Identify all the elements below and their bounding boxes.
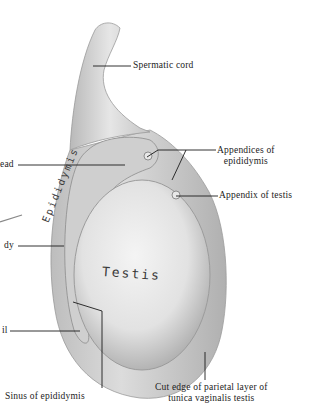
label-body: dy xyxy=(4,240,14,251)
label-appendices-line1: Appendices of xyxy=(217,145,275,156)
label-appendix-of-testis: Appendix of testis xyxy=(219,190,292,201)
label-cut-edge-line1: Cut edge of parietal layer of xyxy=(155,382,268,393)
label-sinus-of-epididymis: Sinus of epididymis xyxy=(5,391,85,402)
label-appendices-line2: epididymis xyxy=(217,156,275,167)
appendix-testis xyxy=(172,191,180,199)
label-head: ead xyxy=(0,159,14,170)
spermatic-cord xyxy=(70,23,150,150)
label-spermatic-cord: Spermatic cord xyxy=(133,60,194,71)
label-appendices-of-epididymis: Appendices of epididymis xyxy=(217,145,275,167)
label-tail: il xyxy=(2,325,8,336)
label-cut-edge-line2: tunica vaginalis testis xyxy=(155,393,268,404)
label-cut-edge: Cut edge of parietal layer of tunica vag… xyxy=(155,382,268,404)
